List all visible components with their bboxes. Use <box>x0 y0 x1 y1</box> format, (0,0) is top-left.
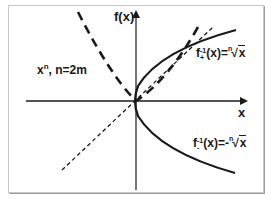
radicand: x <box>239 135 247 150</box>
inverse-negative-label: f-1-(x)=-n√x <box>193 137 246 151</box>
inverse-argument: (x)=- <box>203 136 229 150</box>
root-index: n <box>229 135 233 142</box>
power-base: x <box>37 63 44 77</box>
radical-sign-icon: √ <box>231 46 238 60</box>
radicand: x <box>238 45 246 60</box>
x-axis-label: x <box>238 106 245 119</box>
inverse-argument: (x)= <box>206 46 228 60</box>
root-index: n <box>228 45 232 52</box>
inverse-positive-label: f-1+(x)=n√x <box>196 47 245 61</box>
radical-sign-icon: √ <box>232 136 239 150</box>
power-condition: , n=2m <box>49 63 87 77</box>
power-function-label: xn, n=2m <box>37 63 87 76</box>
y-axis-label: f(x) <box>114 10 134 23</box>
diagram-canvas <box>0 0 272 202</box>
